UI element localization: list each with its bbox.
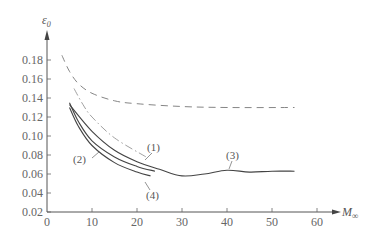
curve-label-3: (3) [226,149,239,162]
x-tick-label: 60 [311,215,323,229]
y-tick-label: 0.06 [22,167,43,181]
x-tick-label: 0 [44,215,50,229]
x-tick-label: 30 [176,215,188,229]
x-axis-title: M∞ [341,205,358,221]
curve-label-2: (2) [73,153,86,166]
x-tick-label: 10 [86,215,98,229]
curve-label-1: (1) [147,141,160,154]
y-tick-label: 0.10 [22,129,43,143]
y-tick-label: 0.14 [22,91,43,105]
x-tick-label: 50 [266,215,278,229]
leader-line-3 [229,161,232,169]
leader-line-1 [145,153,152,160]
curves [62,55,295,176]
y-axis-title: ε0 [42,13,51,29]
y-tick-label: 0.04 [22,186,43,200]
x-axis-arrow-icon [332,210,341,215]
series-line-4 [70,105,295,176]
y-tick-label: 0.08 [22,148,43,162]
series-line-1 [62,55,295,107]
series-line-5 [70,108,151,176]
y-tick-label: 0.18 [22,53,43,67]
leader-line-2 [92,152,99,158]
annotations: ε0 M∞ (1) (2) (3) (4) [42,13,358,221]
x-tick-label: 20 [131,215,143,229]
y-tick-label: 0.16 [22,72,43,86]
y-tick-label: 0.02 [22,205,43,219]
curve-label-4: (4) [146,189,159,202]
y-tick-label: 0.12 [22,110,43,124]
line-chart: 0.020.040.060.080.100.120.140.160.180102… [0,0,375,237]
x-tick-label: 40 [221,215,233,229]
y-axis-arrow-icon [45,30,50,40]
axes: 0.020.040.060.080.100.120.140.160.180102… [22,30,341,229]
